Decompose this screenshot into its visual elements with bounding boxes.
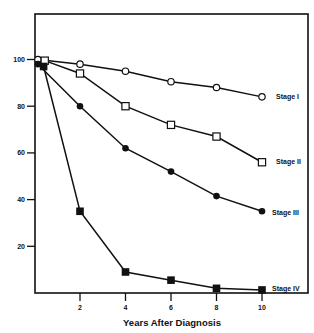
- x-tick-label: 4: [124, 304, 128, 311]
- x-tick-label: 6: [169, 304, 173, 311]
- data-point: [259, 94, 265, 100]
- data-point: [213, 193, 220, 200]
- data-point: [167, 121, 174, 128]
- y-axis: 20406080100: [13, 56, 35, 250]
- series-stage-iii: Stage III: [35, 61, 299, 217]
- data-point: [168, 78, 174, 84]
- series-stage-i: Stage I: [35, 56, 299, 101]
- x-tick-label: 8: [215, 304, 219, 311]
- data-point: [122, 268, 130, 276]
- y-tick-label: 100: [13, 56, 25, 63]
- x-axis-title: Years After Diagnosis: [123, 317, 221, 328]
- data-point: [76, 207, 84, 215]
- x-axis: 246810: [78, 293, 266, 311]
- series-label-stage-iv: Stage IV: [272, 285, 300, 293]
- data-point: [77, 103, 84, 110]
- data-point: [122, 68, 128, 74]
- data-point: [213, 133, 220, 140]
- survival-chart: 20406080100 246810 Stage IStage IIStage …: [0, 0, 314, 333]
- data-point: [167, 276, 175, 284]
- y-tick-label: 40: [17, 196, 25, 203]
- series-line: [44, 67, 262, 290]
- x-tick-label: 10: [258, 304, 266, 311]
- series-group: Stage IStage IIStage IIIStage IV: [35, 56, 301, 293]
- data-point: [258, 159, 265, 166]
- data-point: [40, 63, 48, 71]
- plot-frame: [35, 14, 308, 293]
- series-label-stage-ii: Stage II: [276, 158, 301, 166]
- data-point: [122, 145, 129, 152]
- data-point: [259, 208, 266, 215]
- series-label-stage-i: Stage I: [276, 93, 299, 101]
- data-point: [213, 285, 221, 293]
- y-tick-label: 60: [17, 149, 25, 156]
- y-tick-label: 20: [17, 243, 25, 250]
- y-tick-label: 80: [17, 103, 25, 110]
- data-point: [77, 61, 83, 67]
- series-line: [38, 64, 262, 211]
- series-label-stage-iii: Stage III: [272, 209, 299, 217]
- x-tick-label: 2: [78, 304, 82, 311]
- data-point: [76, 70, 83, 77]
- series-stage-ii: Stage II: [41, 57, 301, 166]
- series-line: [38, 60, 262, 97]
- data-point: [213, 84, 219, 90]
- data-point: [168, 168, 175, 175]
- data-point: [122, 103, 129, 110]
- data-point: [258, 286, 266, 294]
